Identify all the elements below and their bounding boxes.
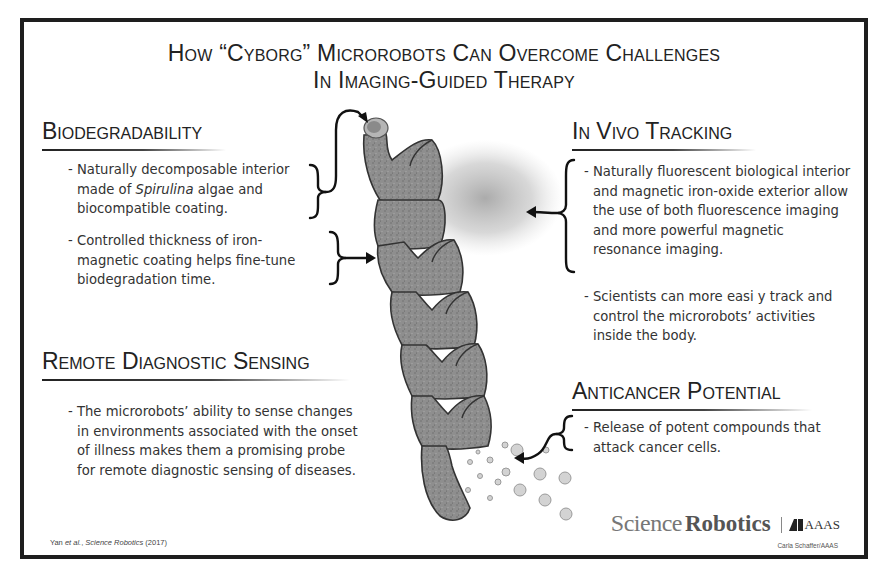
released-particles [466,442,573,520]
brace-biodegradability-2 [330,232,346,284]
microrobot-illustration [0,0,886,573]
arrow-to-cap [326,111,364,192]
brace-in-vivo [558,160,574,272]
brace-biodegradability-1 [310,165,326,218]
arrow-to-particles [520,434,556,459]
brace-anticancer [556,416,572,450]
